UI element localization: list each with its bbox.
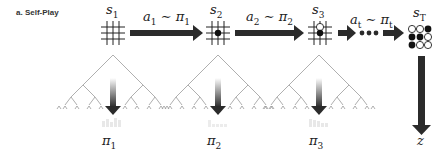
- board-s3: [308, 21, 332, 45]
- board-s2: [206, 21, 230, 45]
- policy-histogram-3: [309, 119, 328, 127]
- policy-histogram-1: [102, 118, 121, 127]
- action-arrow-4: [383, 25, 404, 41]
- policy-arrow-2: [210, 78, 226, 115]
- policy-arrow-3: [311, 78, 327, 115]
- action-arrow-2: [235, 25, 304, 41]
- ellipsis-dots: [360, 31, 379, 36]
- board-s1: [101, 21, 125, 45]
- policy-histogram-2: [208, 120, 227, 127]
- outcome-arrow: [412, 56, 431, 135]
- self-play-diagram: [0, 0, 445, 162]
- action-arrow-3: [338, 25, 356, 41]
- policy-arrow-1: [105, 78, 121, 115]
- action-arrow-1: [130, 25, 203, 41]
- board-sT: [408, 25, 431, 48]
